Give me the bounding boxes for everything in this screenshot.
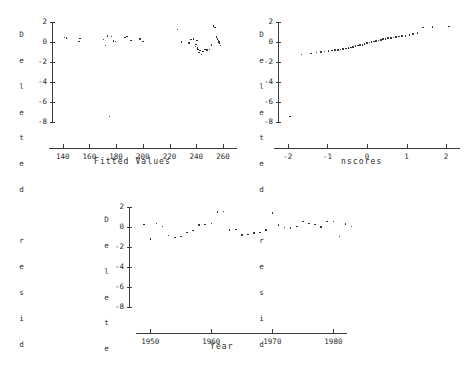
data-point bbox=[337, 49, 339, 51]
x-axis-tick bbox=[196, 144, 197, 149]
plot-area-plot3: 20-2-4-6-81950196019701980 bbox=[85, 185, 375, 365]
data-point bbox=[111, 36, 113, 38]
x-axis-tick-label: 1950 bbox=[134, 337, 166, 346]
y-axis-title-letter: d bbox=[16, 186, 27, 195]
y-axis-title-letter: d bbox=[16, 341, 27, 350]
data-point bbox=[334, 49, 336, 51]
data-point bbox=[333, 221, 335, 223]
x-axis-tick-label: -1 bbox=[311, 152, 343, 161]
y-axis-tick-label: 2 bbox=[105, 202, 124, 211]
data-point bbox=[366, 42, 368, 44]
data-point bbox=[387, 37, 389, 39]
data-point bbox=[220, 45, 222, 47]
x-axis-tick-label: 260 bbox=[207, 152, 239, 161]
data-point bbox=[174, 237, 176, 239]
y-axis-tick bbox=[276, 102, 281, 103]
y-axis-tick bbox=[50, 22, 55, 23]
data-point bbox=[193, 38, 195, 40]
data-point bbox=[395, 36, 397, 38]
data-point bbox=[190, 39, 192, 41]
data-point bbox=[139, 38, 141, 40]
x-axis-tick bbox=[150, 329, 151, 334]
y-axis-tick bbox=[276, 42, 281, 43]
data-point bbox=[432, 26, 434, 28]
y-axis-tick bbox=[127, 267, 132, 268]
data-point bbox=[247, 234, 249, 236]
data-point bbox=[113, 40, 115, 42]
data-point bbox=[211, 44, 213, 46]
y-axis-tick-label: -2 bbox=[254, 57, 273, 66]
data-point bbox=[375, 40, 377, 42]
x-axis-tick bbox=[272, 329, 273, 334]
plot-normal-probability: D e l e t e d r e s i d u a l s 20-2-4-6… bbox=[240, 0, 471, 180]
y-axis-title-letter: s bbox=[16, 289, 27, 298]
y-axis-tick bbox=[127, 227, 132, 228]
data-point bbox=[345, 48, 347, 50]
data-point bbox=[278, 224, 280, 226]
data-point bbox=[188, 42, 190, 44]
y-axis-tick-label: -4 bbox=[28, 77, 47, 86]
y-axis-tick-label: -6 bbox=[105, 282, 124, 291]
data-point bbox=[373, 41, 375, 43]
data-point bbox=[143, 224, 145, 226]
y-axis-tick-label: 2 bbox=[28, 17, 47, 26]
data-point bbox=[308, 223, 310, 225]
x-axis-tick-label: 1 bbox=[391, 152, 423, 161]
data-point bbox=[168, 235, 170, 237]
y-axis-title-letter: e bbox=[16, 263, 27, 272]
data-point bbox=[296, 226, 298, 228]
x-axis-tick bbox=[211, 329, 212, 334]
data-point bbox=[326, 221, 328, 223]
data-point bbox=[109, 116, 111, 118]
data-point bbox=[199, 50, 201, 52]
y-axis-tick bbox=[127, 287, 132, 288]
data-point bbox=[79, 38, 81, 40]
y-axis-title-letter: r bbox=[16, 237, 27, 246]
data-point bbox=[310, 53, 312, 55]
data-point bbox=[290, 227, 292, 229]
x-axis-tick bbox=[327, 144, 328, 149]
data-point bbox=[324, 51, 326, 53]
data-point bbox=[289, 116, 291, 118]
data-point bbox=[186, 232, 188, 234]
y-axis-title-letter: i bbox=[16, 315, 27, 324]
x-axis-tick bbox=[116, 144, 117, 149]
data-point bbox=[405, 35, 407, 37]
data-point bbox=[364, 43, 366, 45]
data-point bbox=[214, 27, 216, 29]
data-point bbox=[380, 39, 382, 41]
y-axis-tick bbox=[127, 207, 132, 208]
x-axis-title-plot1: Fitted Values bbox=[94, 157, 171, 166]
data-point bbox=[204, 224, 206, 226]
x-axis-tick-label: -2 bbox=[272, 152, 304, 161]
data-point bbox=[181, 41, 183, 43]
y-axis-tick-label: -8 bbox=[254, 117, 273, 126]
data-point bbox=[202, 51, 204, 53]
y-axis-tick-label: -8 bbox=[28, 117, 47, 126]
x-axis-tick bbox=[89, 144, 90, 149]
data-point bbox=[340, 49, 342, 51]
data-point bbox=[198, 224, 200, 226]
data-point bbox=[219, 42, 221, 44]
x-axis-tick bbox=[446, 144, 447, 149]
data-point bbox=[339, 236, 341, 238]
y-axis-tick bbox=[50, 102, 55, 103]
y-axis-tick-label: 2 bbox=[254, 17, 273, 26]
data-point bbox=[422, 27, 424, 29]
y-axis-tick bbox=[50, 62, 55, 63]
y-axis-tick-label: -2 bbox=[105, 242, 124, 251]
x-axis-tick bbox=[333, 329, 334, 334]
data-point bbox=[229, 229, 231, 231]
data-point bbox=[177, 29, 179, 31]
x-axis-tick bbox=[288, 144, 289, 149]
plot-area-plot2: 20-2-4-6-8-2-1012 bbox=[240, 0, 471, 180]
data-point bbox=[192, 230, 194, 232]
y-axis-tick bbox=[50, 122, 55, 123]
y-axis-tick-label: -6 bbox=[254, 97, 273, 106]
data-point bbox=[320, 51, 322, 53]
y-axis-line bbox=[278, 22, 279, 122]
y-axis-tick-label: -6 bbox=[28, 97, 47, 106]
data-point bbox=[162, 226, 164, 228]
data-point bbox=[382, 38, 384, 40]
data-point bbox=[223, 211, 225, 213]
